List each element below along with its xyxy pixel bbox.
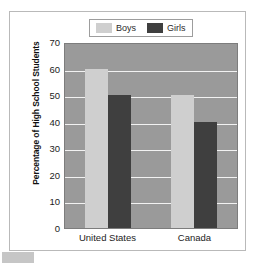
corner-swatch: [2, 252, 34, 263]
y-axis-tick-30: 30: [38, 145, 60, 155]
y-axis-tick-20: 20: [38, 171, 60, 181]
bar-girls-canada: [194, 122, 217, 228]
plot-wrapper: 010203040506070: [38, 43, 238, 229]
bar-girls-united-states: [108, 95, 131, 228]
legend-label-boys: Boys: [116, 24, 136, 33]
bar-boys-canada: [171, 95, 194, 228]
bars-layer: [65, 44, 237, 228]
chart-legend: Boys Girls: [89, 19, 193, 37]
legend-entry-boys: Boys: [96, 23, 136, 33]
y-axis-tick-10: 10: [38, 198, 60, 208]
y-axis-tick-60: 60: [38, 65, 60, 75]
x-axis-tick-united-states: United States: [64, 232, 151, 243]
y-axis-tick-labels: 010203040506070: [38, 43, 60, 229]
y-axis-tick-40: 40: [38, 118, 60, 128]
legend-swatch-girls: [147, 23, 163, 33]
x-axis-tick-labels: United StatesCanada: [64, 232, 238, 243]
y-axis-tick-0: 0: [38, 224, 60, 234]
y-axis-tick-50: 50: [38, 91, 60, 101]
legend-label-girls: Girls: [167, 24, 186, 33]
legend-swatch-boys: [96, 23, 112, 33]
x-axis-tick-canada: Canada: [151, 232, 238, 243]
y-axis-tick-70: 70: [38, 38, 60, 48]
plot-area: [64, 43, 238, 229]
legend-entry-girls: Girls: [147, 23, 186, 33]
bar-boys-united-states: [85, 69, 108, 228]
figure-frame: Boys Girls Percentage of High School Stu…: [9, 11, 246, 251]
